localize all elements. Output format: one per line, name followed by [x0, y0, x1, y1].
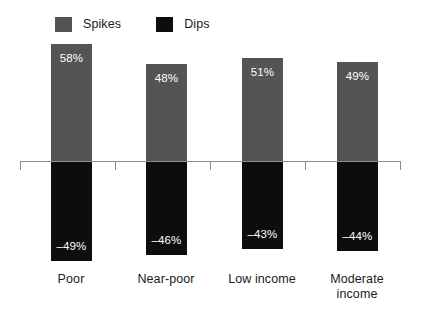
- bar-value-dips-poor: –49%: [51, 241, 92, 253]
- axis-tick-end: [400, 161, 401, 170]
- category-label-moderate-income-line1: Moderate: [302, 272, 412, 287]
- bar-value-spikes-near-poor: 48%: [146, 73, 187, 85]
- bar-group-moderate-income: 49% –44%: [337, 0, 378, 316]
- bar-spikes-low-income: 51%: [242, 58, 283, 161]
- bar-dips-poor: –49%: [51, 162, 92, 261]
- bar-value-spikes-moderate-income: 49%: [337, 71, 378, 83]
- category-label-near-poor-line1: Near-poor: [111, 272, 221, 287]
- bar-value-spikes-low-income: 51%: [242, 67, 283, 79]
- category-label-poor-line1: Poor: [16, 272, 126, 287]
- bar-value-dips-near-poor: –46%: [146, 235, 187, 247]
- category-label-poor: Poor: [16, 272, 126, 287]
- category-label-moderate-income-line2: income: [302, 287, 412, 302]
- diverging-bar-chart: Spikes Dips 58% –49% 48%: [0, 0, 423, 316]
- bar-group-near-poor: 48% –46%: [146, 0, 187, 316]
- category-label-low-income-line1: Low income: [207, 272, 317, 287]
- bar-dips-near-poor: –46%: [146, 162, 187, 255]
- bar-dips-low-income: –43%: [242, 162, 283, 249]
- bar-group-low-income: 51% –43%: [242, 0, 283, 316]
- plot-area: 58% –49% 48% –46% 51% –43%: [0, 0, 423, 316]
- axis-tick-2: [210, 161, 211, 170]
- bar-spikes-near-poor: 48%: [146, 64, 187, 161]
- bar-group-poor: 58% –49%: [51, 0, 92, 316]
- bar-spikes-poor: 58%: [51, 44, 92, 161]
- bar-value-dips-low-income: –43%: [242, 229, 283, 241]
- category-label-low-income: Low income: [207, 272, 317, 287]
- bar-value-spikes-poor: 58%: [51, 53, 92, 65]
- bar-value-dips-moderate-income: –44%: [337, 231, 378, 243]
- category-label-moderate-income: Moderate income: [302, 272, 412, 302]
- axis-tick-3: [305, 161, 306, 170]
- category-label-near-poor: Near-poor: [111, 272, 221, 287]
- axis-tick-1: [115, 161, 116, 170]
- bar-dips-moderate-income: –44%: [337, 162, 378, 251]
- bar-spikes-moderate-income: 49%: [337, 62, 378, 161]
- axis-tick-start: [20, 161, 21, 170]
